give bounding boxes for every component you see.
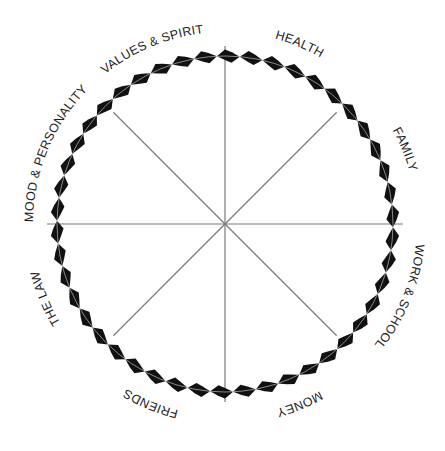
life-wheel-diagram: HEALTH FAMILY WORK & SCHOOL MONEY FRIEND… — [0, 0, 445, 451]
section-label-work-school: WORK & SCHOOL — [372, 243, 427, 351]
section-label-friends: FRIENDS — [121, 386, 180, 421]
section-label-the-law: THE LAW — [28, 269, 63, 328]
section-label-health: HEALTH — [274, 28, 326, 60]
section-label-money: MONEY — [275, 388, 325, 419]
spoke-line — [113, 224, 225, 336]
spoke-line — [113, 112, 225, 224]
spokes — [47, 46, 403, 402]
section-label-mood-personality: MOOD & PERSONALITY — [22, 82, 91, 223]
section-label-values-spirit: VALUES & SPIRIT — [98, 22, 204, 76]
section-label-family: FAMILY — [390, 125, 421, 173]
spoke-line — [225, 112, 337, 224]
spoke-line — [225, 224, 337, 336]
